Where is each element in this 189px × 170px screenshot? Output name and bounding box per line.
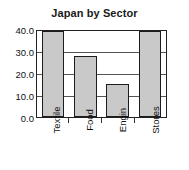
y-tick-label-10: 10.0 — [0, 92, 34, 102]
x-label-slot-2: Engin — [101, 118, 134, 170]
x-tick-label-stores: Stores — [151, 106, 161, 133]
y-tick-label-0: 0.0 — [0, 114, 34, 124]
bar-stores — [139, 31, 162, 117]
plot-area — [36, 30, 167, 118]
bar-food — [74, 56, 97, 117]
y-tick-label-30: 30.0 — [0, 48, 34, 58]
y-axis: 40.0 30.0 20.0 10.0 0.0 — [0, 30, 34, 118]
bar-chart: Japan by Sector 40.0 30.0 20.0 10.0 0.0 … — [0, 0, 189, 170]
x-label-slot-1: Food — [68, 118, 101, 170]
x-tick-label-food: Food — [85, 109, 95, 131]
x-tick-label-textile: Textile — [52, 107, 62, 134]
x-axis-labels: Textile Food Engin Stores — [36, 118, 167, 170]
chart-title: Japan by Sector — [0, 7, 189, 19]
x-tick-label-engin: Engin — [118, 108, 128, 132]
y-tick-label-20: 20.0 — [0, 70, 34, 80]
y-tick-label-40: 40.0 — [0, 26, 34, 36]
x-label-slot-0: Textile — [36, 118, 68, 170]
x-label-slot-3: Stores — [134, 118, 167, 170]
bar-textile — [42, 31, 65, 117]
